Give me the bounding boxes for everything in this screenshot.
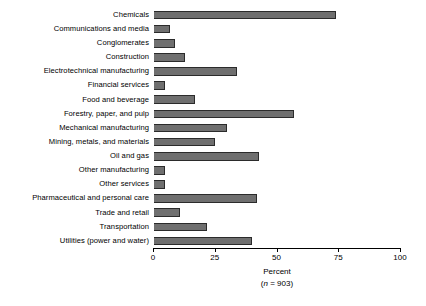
bar-row xyxy=(153,166,400,175)
x-tick-label: 100 xyxy=(385,253,415,262)
category-label: Pharmaceutical and personal care xyxy=(0,194,149,202)
bar xyxy=(153,237,252,246)
bar xyxy=(153,124,227,133)
bar xyxy=(153,180,165,189)
category-label: Other services xyxy=(0,180,149,188)
category-label: Communications and media xyxy=(0,25,149,33)
bar xyxy=(153,67,237,76)
bar-row xyxy=(153,223,400,232)
category-label: Financial services xyxy=(0,81,149,89)
bar xyxy=(153,152,259,161)
plot-area xyxy=(153,8,400,248)
bar xyxy=(153,194,257,203)
category-label: Mechanical manufacturing xyxy=(0,124,149,132)
category-label: Other manufacturing xyxy=(0,166,149,174)
category-label: Chemicals xyxy=(0,11,149,19)
bar-row xyxy=(153,180,400,189)
x-tick-label: 50 xyxy=(262,253,292,262)
category-label: Electrotechnical manufacturing xyxy=(0,67,149,75)
x-tick-label: 0 xyxy=(138,253,168,262)
x-tick-mark xyxy=(277,248,278,252)
x-tick-mark xyxy=(338,248,339,252)
category-label: Food and beverage xyxy=(0,96,149,104)
category-label: Mining, metals, and materials xyxy=(0,138,149,146)
bar xyxy=(153,223,207,232)
bar-row xyxy=(153,152,400,161)
bar-chart: ChemicalsCommunications and mediaConglom… xyxy=(0,0,426,306)
x-axis-sample-size: (n = 903) xyxy=(153,279,401,289)
bar xyxy=(153,39,175,48)
bar xyxy=(153,81,165,90)
x-tick-mark xyxy=(153,248,154,252)
bar xyxy=(153,11,336,20)
bar-row xyxy=(153,124,400,133)
bar-row xyxy=(153,25,400,34)
bar xyxy=(153,53,185,62)
sample-rest: = 903) xyxy=(268,279,293,288)
category-label: Construction xyxy=(0,53,149,61)
bar xyxy=(153,138,215,147)
category-label: Transportation xyxy=(0,223,149,231)
bar xyxy=(153,208,180,217)
bar xyxy=(153,166,165,175)
bar-row xyxy=(153,194,400,203)
category-axis-labels: ChemicalsCommunications and mediaConglom… xyxy=(0,8,149,248)
category-label: Forestry, paper, and pulp xyxy=(0,110,149,118)
bar xyxy=(153,95,195,104)
bar-row xyxy=(153,39,400,48)
bar-row xyxy=(153,11,400,20)
category-label: Utilities (power and water) xyxy=(0,237,149,245)
x-axis-title: Percent xyxy=(153,267,401,277)
x-tick-mark xyxy=(215,248,216,252)
bar-row xyxy=(153,67,400,76)
x-tick-mark xyxy=(400,248,401,252)
bar-row xyxy=(153,95,400,104)
bar xyxy=(153,25,170,34)
bar-row xyxy=(153,81,400,90)
x-tick-label: 25 xyxy=(200,253,230,262)
bar-row xyxy=(153,237,400,246)
x-tick-label: 75 xyxy=(323,253,353,262)
category-label: Conglomerates xyxy=(0,39,149,47)
bar xyxy=(153,110,294,119)
bar-row xyxy=(153,53,400,62)
y-axis-line xyxy=(153,8,154,249)
bar-row xyxy=(153,208,400,217)
category-label: Trade and retail xyxy=(0,209,149,217)
bar-row xyxy=(153,138,400,147)
category-label: Oil and gas xyxy=(0,152,149,160)
bar-row xyxy=(153,110,400,119)
